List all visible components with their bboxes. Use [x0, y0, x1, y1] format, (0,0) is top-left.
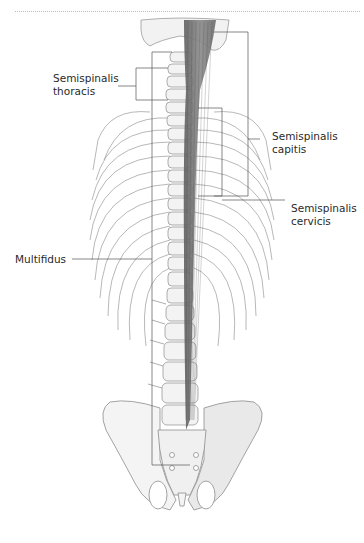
label-line: cervicis: [291, 215, 357, 228]
label-semispinalis-thoracis: Semispinalis thoracis: [53, 72, 119, 98]
label-line: capitis: [272, 143, 338, 156]
label-line: Semispinalis: [53, 72, 119, 85]
label-line: Semispinalis: [272, 130, 338, 143]
label-line: Multifidus: [15, 253, 66, 266]
label-line: Semispinalis: [291, 202, 357, 215]
semispinalis-muscle: [184, 20, 216, 430]
label-line: thoracis: [53, 85, 119, 98]
label-semispinalis-capitis: Semispinalis capitis: [272, 130, 338, 156]
label-semispinalis-cervicis: Semispinalis cervicis: [291, 202, 357, 228]
label-multifidus: Multifidus: [15, 253, 66, 266]
